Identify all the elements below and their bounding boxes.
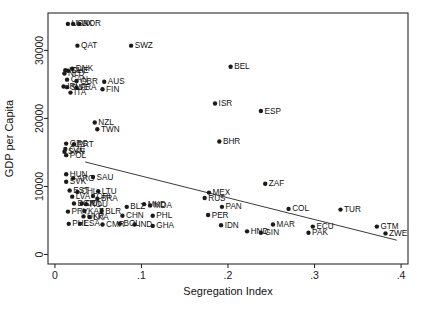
x-tick-label: .4 — [397, 269, 406, 281]
data-point — [66, 209, 70, 213]
data-point — [151, 224, 155, 228]
data-point-label: POL — [70, 151, 87, 160]
data-point-label: ITA — [74, 88, 87, 97]
data-point — [93, 120, 97, 124]
data-point — [375, 224, 379, 228]
data-point — [338, 207, 342, 211]
data-point — [77, 22, 81, 26]
data-point-label: SAU — [97, 173, 114, 182]
data-point-label: IND — [138, 220, 152, 229]
data-point — [95, 127, 99, 131]
data-point — [129, 43, 133, 47]
data-point — [219, 223, 223, 227]
data-point-label: RUS — [208, 194, 226, 203]
data-point — [286, 207, 290, 211]
data-point — [65, 85, 69, 89]
data-point-label: TWN — [101, 125, 120, 134]
data-point — [80, 201, 84, 205]
plot-canvas: 01000020000300000.1.2.3.4Segregation Ind… — [0, 0, 433, 315]
data-point — [217, 139, 221, 143]
data-point-label: FIN — [106, 85, 119, 94]
data-point — [120, 214, 124, 218]
data-point — [228, 65, 232, 69]
regression-line — [85, 162, 397, 240]
data-point — [66, 22, 70, 26]
x-tick-label: .3 — [310, 269, 319, 281]
data-point — [306, 231, 310, 235]
data-point — [62, 71, 66, 75]
data-point — [91, 194, 95, 198]
data-point — [383, 231, 387, 235]
data-point — [151, 214, 155, 218]
data-point — [81, 214, 85, 218]
x-tick-label: .1 — [137, 269, 146, 281]
data-point-label: ZWE — [389, 229, 408, 238]
data-point-label: CMR — [106, 220, 125, 229]
data-point — [70, 194, 74, 198]
data-point-label: ISR — [219, 99, 233, 108]
y-tick-label: 10000 — [33, 172, 45, 201]
data-point — [72, 201, 76, 205]
data-point — [220, 205, 224, 209]
data-point-label: ZAF — [269, 179, 284, 188]
x-tick-label: 0 — [52, 269, 58, 281]
data-point — [259, 231, 263, 235]
y-tick-label: 30000 — [33, 36, 45, 65]
data-point-label: BHR — [223, 137, 240, 146]
data-point-label: BEL — [234, 62, 250, 71]
data-point-label: ESP — [264, 107, 281, 116]
data-point-label: PAK — [312, 228, 328, 237]
data-point — [102, 80, 106, 84]
data-point-label: NOR — [83, 19, 101, 28]
data-point — [245, 229, 249, 233]
data-point-label: PHL — [156, 211, 172, 220]
data-point — [271, 222, 275, 226]
data-point — [78, 222, 82, 226]
data-point-label: SVK — [70, 177, 87, 186]
data-point — [64, 141, 68, 145]
data-point — [142, 202, 146, 206]
data-point — [118, 222, 122, 226]
data-point — [75, 43, 79, 47]
data-point — [67, 222, 71, 226]
y-axis-title: GDP per Capita — [3, 99, 15, 177]
data-point-label: IDN — [225, 221, 239, 230]
scatter-plot-figure: 01000020000300000.1.2.3.4Segregation Ind… — [0, 0, 433, 315]
data-point — [64, 172, 68, 176]
data-point-label: ESA — [84, 219, 101, 228]
data-point — [82, 209, 86, 213]
data-point-label: PER — [212, 211, 229, 220]
data-point-label: MAR — [277, 220, 295, 229]
data-point — [64, 179, 68, 183]
data-point — [259, 109, 263, 113]
data-point — [206, 213, 210, 217]
data-point — [263, 182, 267, 186]
data-point — [91, 175, 95, 179]
y-tick-label: 20000 — [33, 104, 45, 133]
data-point — [132, 222, 136, 226]
data-point-label: GIN — [264, 228, 279, 237]
data-point — [64, 153, 68, 157]
data-point-label: QAT — [81, 41, 97, 50]
x-axis-title: Segregation Index — [183, 285, 273, 297]
data-point-label: MDA — [154, 201, 173, 210]
data-point — [213, 101, 217, 105]
data-point — [100, 87, 104, 91]
data-point-label: SWZ — [135, 41, 153, 50]
x-tick-label: .2 — [224, 269, 233, 281]
data-point — [202, 196, 206, 200]
data-point-label: GHA — [156, 221, 174, 230]
data-point-label: COL — [292, 204, 309, 213]
data-point — [67, 188, 71, 192]
data-point — [71, 22, 75, 26]
data-point — [125, 205, 129, 209]
data-point-label: TUR — [344, 205, 361, 214]
y-tick-label: 0 — [33, 251, 45, 257]
data-point — [148, 203, 152, 207]
data-point — [68, 90, 72, 94]
data-point — [100, 222, 104, 226]
